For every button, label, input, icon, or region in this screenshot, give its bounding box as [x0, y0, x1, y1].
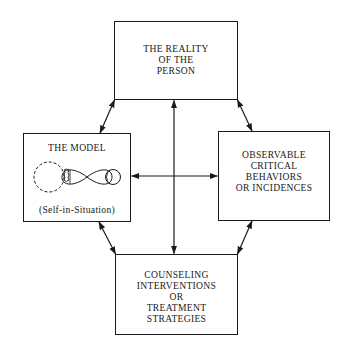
arrow-bottom-right	[238, 221, 253, 254]
node-text-line: OBSERVABLE	[219, 149, 329, 160]
node-text-line: THE REALITY	[115, 43, 237, 54]
node-reality-of-person: THE REALITY OF THE PERSON	[114, 21, 238, 100]
node-text-line: COUNSELING	[116, 269, 237, 280]
node-text-line: OR INCIDENCES	[219, 182, 329, 193]
node-counseling-interventions: COUNSELING INTERVENTIONS OR TREATMENT ST…	[115, 254, 238, 335]
arrow-top-left	[100, 100, 115, 133]
node-observable-behaviors: OBSERVABLE CRITICAL BEHAVIORS OR INCIDEN…	[218, 131, 330, 221]
node-text-line: TREATMENT	[116, 302, 237, 313]
node-text-line: OF THE	[115, 54, 237, 65]
arrow-top-right	[238, 100, 253, 131]
node-text-line: BEHAVIORS	[219, 171, 329, 182]
node-text-line: INTERVENTIONS	[116, 280, 237, 291]
model-caption: (Self-in-Situation)	[24, 204, 130, 215]
node-text-line: STRATEGIES	[116, 313, 237, 324]
node-text-line: OR	[116, 291, 237, 302]
node-text-line: CRITICAL	[219, 160, 329, 171]
diagram-canvas: THE REALITY OF THE PERSON THE MODEL (Sel…	[0, 0, 346, 356]
node-text-line: PERSON	[115, 65, 237, 76]
arrow-bottom-left	[99, 222, 116, 254]
node-the-model: THE MODEL (Self-in-Situation)	[23, 133, 131, 222]
